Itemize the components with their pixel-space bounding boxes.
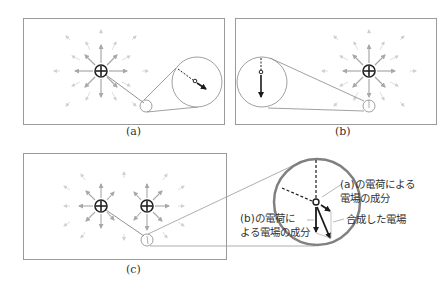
panel-b — [236, 19, 437, 125]
panel-a — [24, 19, 225, 125]
positive-charge-icon — [95, 65, 107, 77]
probe-point — [313, 199, 319, 205]
positive-charge-icon — [95, 200, 107, 212]
caption-c: (c) — [126, 263, 141, 276]
positive-charge-icon — [363, 65, 375, 77]
caption-b: (b) — [335, 125, 351, 138]
label-resultant: 合成した電場 — [346, 212, 406, 226]
label-component-b: (b)の電荷に よる電場の成分 — [240, 211, 310, 239]
electric-field-diagram — [0, 0, 447, 297]
probe-point — [193, 79, 197, 83]
probe-point — [259, 70, 263, 74]
label-component-a: (a)の電荷による 電場の成分 — [340, 177, 415, 205]
positive-charge-icon — [141, 200, 153, 212]
zoom-circle — [237, 57, 287, 107]
panel-c — [24, 154, 361, 260]
panel-c-frame — [24, 154, 227, 260]
caption-a: (a) — [126, 125, 141, 138]
